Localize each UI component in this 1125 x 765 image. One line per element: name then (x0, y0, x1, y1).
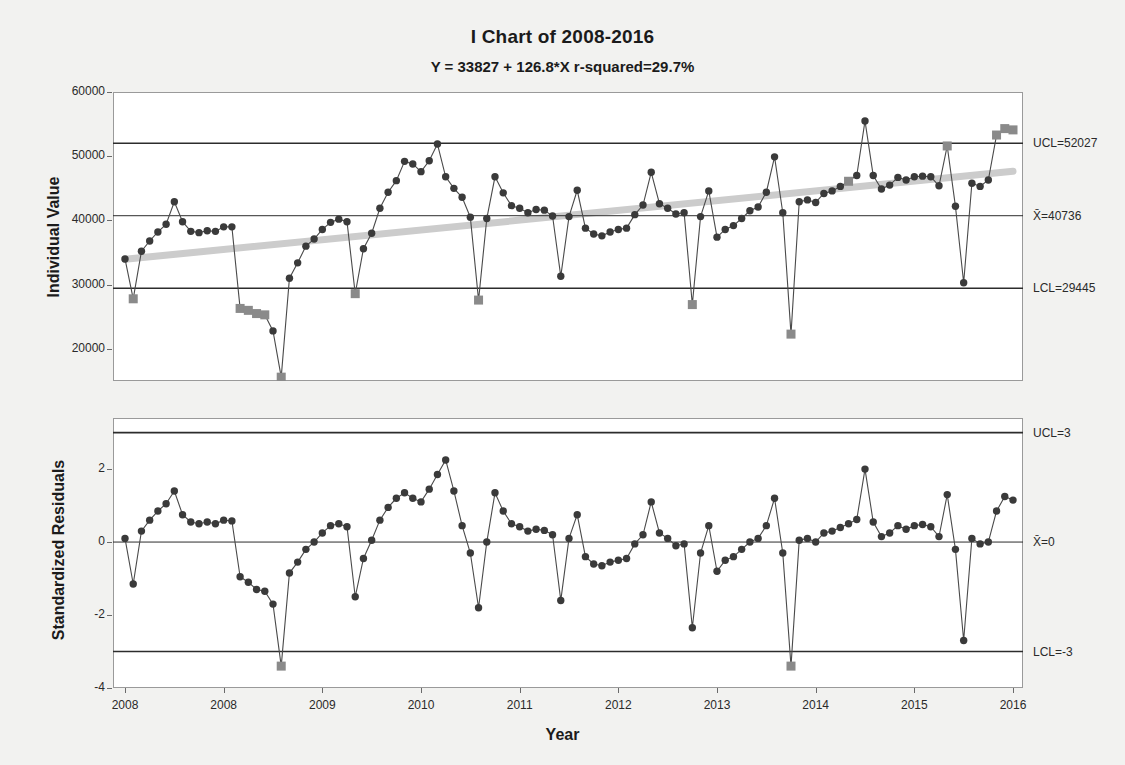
i-chart-y-tick-mark (107, 220, 112, 221)
residual-y-tick-mark (107, 615, 112, 616)
residual-y-tick-0: 0 (53, 534, 105, 548)
residual-y-tick-mark (107, 469, 112, 470)
residual-y-tick-mark (107, 542, 112, 543)
chart-page: I Chart of 2008-2016 Y = 33827 + 126.8*X… (0, 0, 1125, 765)
i-chart-y-tick-30000: 30000 (49, 277, 105, 291)
x-tick-8-2015: 2015 (889, 698, 939, 712)
i-chart-y-tick-40000: 40000 (49, 212, 105, 226)
x-tick-4-2011: 2011 (495, 698, 545, 712)
i-chart-y-tick-20000: 20000 (49, 341, 105, 355)
i-chart-y-tick-mark (107, 349, 112, 350)
residual-y-tick--2: -2 (53, 607, 105, 621)
x-tick-mark (816, 688, 817, 693)
i-chart-plot (113, 92, 1023, 381)
x-tick-1-2008: 2008 (199, 698, 249, 712)
x-tick-mark (618, 688, 619, 693)
x-tick-7-2014: 2014 (791, 698, 841, 712)
x-tick-mark (224, 688, 225, 693)
x-tick-mark (717, 688, 718, 693)
x-tick-5-2012: 2012 (593, 698, 643, 712)
residual-ucl-label: UCL=3 (1033, 426, 1071, 440)
x-tick-mark (421, 688, 422, 693)
x-tick-3-2010: 2010 (396, 698, 446, 712)
x-tick-0-2008: 2008 (100, 698, 150, 712)
i-chart-y-tick-mark (107, 92, 112, 93)
residual-chart-plot (113, 418, 1023, 688)
i-chart-y-tick-60000: 60000 (49, 84, 105, 98)
x-tick-6-2013: 2013 (692, 698, 742, 712)
residual-lcl-label: LCL=-3 (1033, 645, 1073, 659)
i-chart-y-tick-mark (107, 156, 112, 157)
x-tick-mark (322, 688, 323, 693)
regression-subtitle: Y = 33827 + 126.8*X r-squared=29.7% (0, 58, 1125, 75)
x-tick-mark (1013, 688, 1014, 693)
x-tick-mark (520, 688, 521, 693)
i-chart-lcl-label: LCL=29445 (1033, 281, 1095, 295)
residual-y-tick-2: 2 (53, 461, 105, 475)
residual-center-label: X̄=0 (1033, 535, 1055, 549)
x-tick-2-2009: 2009 (297, 698, 347, 712)
i-chart-y-axis-title: Individual Value (45, 147, 63, 327)
i-chart-y-tick-50000: 50000 (49, 148, 105, 162)
x-tick-mark (125, 688, 126, 693)
residual-y-tick-mark (107, 688, 112, 689)
page-title: I Chart of 2008-2016 (0, 26, 1125, 48)
x-tick-mark (914, 688, 915, 693)
i-chart-ucl-label: UCL=52027 (1033, 136, 1097, 150)
residual-y-tick--4: -4 (53, 680, 105, 694)
i-chart-center-label: X̄=40736 (1033, 209, 1081, 223)
x-tick-9-2016: 2016 (988, 698, 1038, 712)
x-axis-title: Year (0, 726, 1125, 744)
i-chart-y-tick-mark (107, 285, 112, 286)
